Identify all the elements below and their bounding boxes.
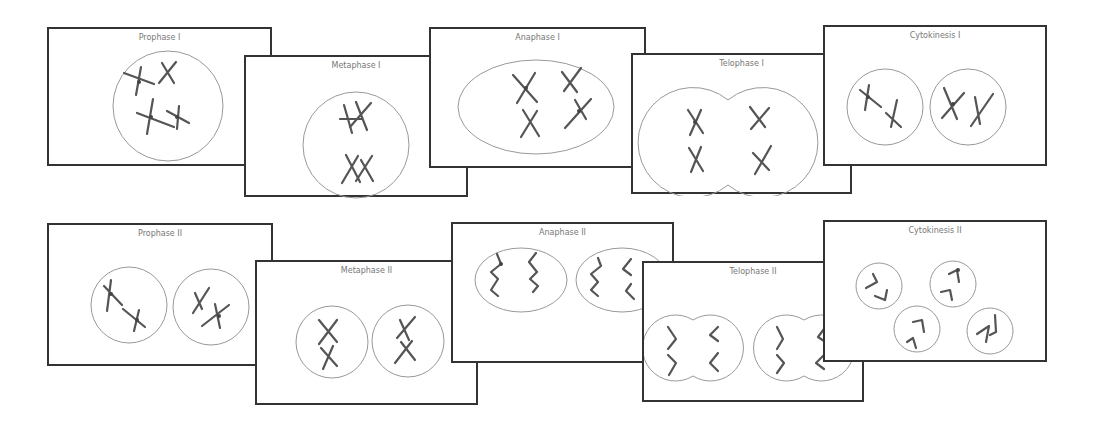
panel-metaphase-2: Metaphase II	[255, 260, 478, 405]
panel-anaphase-1: Anaphase I	[429, 27, 646, 168]
cytokinesis-1-illustration	[825, 27, 1049, 168]
panel-prophase-2: Prophase II	[47, 223, 273, 366]
prophase-1-illustration	[49, 29, 274, 168]
cytokinesis-2-illustration	[825, 222, 1049, 364]
panel-telophase-1: Telophase I	[631, 53, 852, 194]
panel-prophase-1: Prophase I	[47, 27, 272, 166]
panel-anaphase-2: Anaphase II	[451, 222, 674, 363]
anaphase-1-illustration	[431, 29, 648, 170]
panel-cytokinesis-1: Cytokinesis I	[823, 25, 1047, 166]
prophase-2-illustration	[49, 225, 275, 368]
metaphase-2-illustration	[257, 262, 480, 407]
panel-cytokinesis-2: Cytokinesis II	[823, 220, 1047, 362]
telophase-1-illustration	[633, 55, 854, 196]
